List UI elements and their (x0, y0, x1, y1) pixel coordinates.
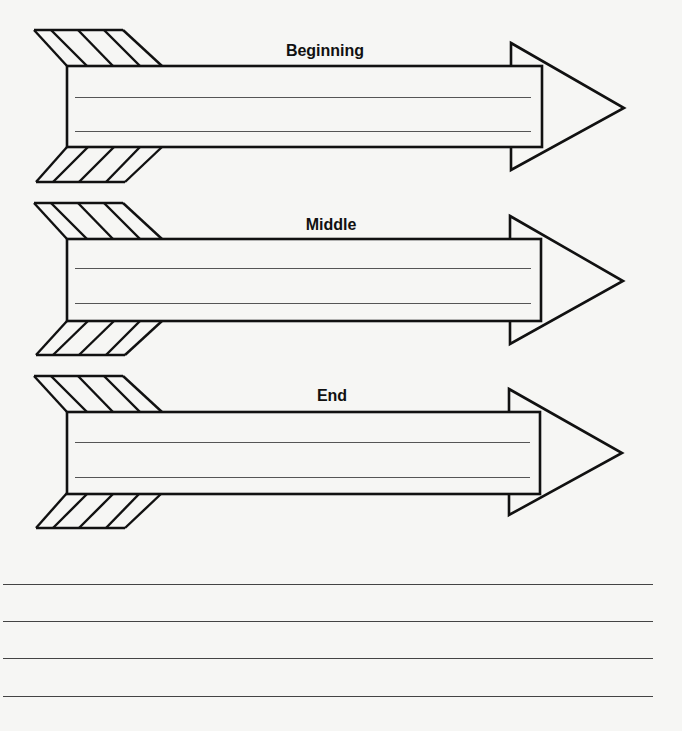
worksheet-page: Beginning Middle (0, 0, 682, 731)
bottom-writing-line[interactable] (3, 621, 653, 622)
arrow-end: End (0, 346, 682, 536)
arrow-label-beginning: Beginning (286, 42, 364, 60)
arrow-label-middle: Middle (306, 216, 357, 234)
writing-line[interactable] (75, 442, 530, 443)
fletching-top-icon (34, 376, 162, 412)
fletching-bottom-icon (36, 493, 162, 528)
writing-line[interactable] (75, 97, 531, 98)
fletching-top-icon (34, 203, 162, 239)
arrow-beginning-graphic (0, 0, 682, 190)
fletching-top-icon (34, 30, 162, 66)
bottom-writing-line[interactable] (3, 658, 653, 659)
arrow-shaft (67, 412, 540, 494)
arrow-label-end: End (317, 387, 347, 405)
arrow-beginning: Beginning (0, 0, 682, 190)
writing-line[interactable] (75, 131, 531, 132)
arrow-shaft (67, 66, 542, 147)
bottom-writing-line[interactable] (3, 696, 653, 697)
arrow-shaft (67, 239, 541, 321)
writing-line[interactable] (75, 303, 531, 304)
bottom-writing-line[interactable] (3, 584, 653, 585)
writing-line[interactable] (75, 477, 530, 478)
writing-line[interactable] (75, 268, 531, 269)
arrow-middle: Middle (0, 173, 682, 363)
arrow-end-graphic (0, 346, 682, 536)
